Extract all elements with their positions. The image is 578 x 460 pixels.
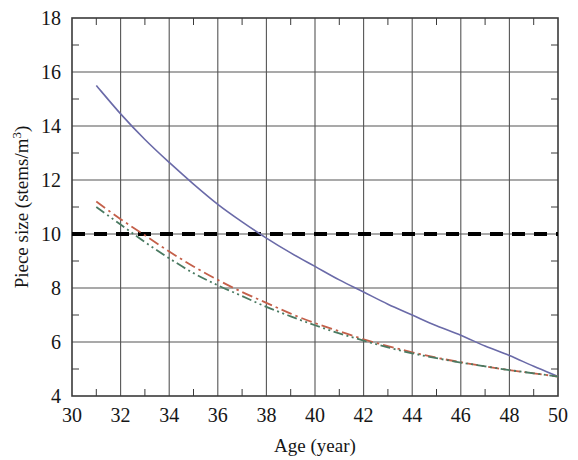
- y-tick-label: 16: [41, 61, 61, 83]
- x-tick-label: 48: [499, 404, 519, 426]
- y-tick-label: 10: [41, 223, 61, 245]
- line-chart: 3032343638404244464850 4681012141618 Age…: [0, 0, 578, 460]
- y-tick-label: 18: [41, 7, 61, 29]
- y-axis-title-suffix: ): [11, 126, 33, 132]
- y-tick-label: 8: [51, 277, 61, 299]
- y-tick-label: 4: [51, 385, 61, 407]
- chart-figure: 3032343638404244464850 4681012141618 Age…: [0, 0, 578, 460]
- chart-background: [0, 0, 578, 460]
- x-tick-label: 46: [451, 404, 471, 426]
- x-tick-label: 42: [354, 404, 374, 426]
- x-tick-label: 32: [111, 404, 131, 426]
- y-tick-label: 14: [41, 115, 61, 137]
- x-tick-label: 36: [208, 404, 228, 426]
- y-tick-label: 6: [51, 331, 61, 353]
- y-axis-title-main: Piece size (stems/m: [11, 138, 33, 288]
- x-tick-label: 34: [159, 404, 179, 426]
- y-tick-label: 12: [41, 169, 61, 191]
- y-axis-title: Piece size (stems/m3): [9, 126, 33, 289]
- x-tick-label: 50: [548, 404, 568, 426]
- x-axis-title: Age (year): [274, 435, 356, 457]
- x-tick-label: 30: [62, 404, 82, 426]
- x-tick-label: 44: [402, 404, 422, 426]
- svg-text:Piece size (stems/m3): Piece size (stems/m3): [9, 126, 33, 289]
- x-tick-label: 38: [256, 404, 276, 426]
- x-tick-label: 40: [305, 404, 325, 426]
